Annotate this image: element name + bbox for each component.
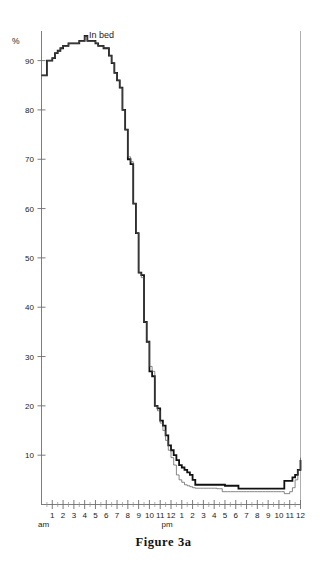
y-tick-label: 30 (25, 353, 34, 362)
x-tick-label: 5 (93, 511, 98, 520)
x-tick-label: 6 (104, 511, 109, 520)
x-tick-label: 2 (190, 511, 195, 520)
x-tick-label: 9 (266, 511, 271, 520)
figure-container: 102030405060708090 123456789101112123456… (0, 0, 327, 563)
x-tick-label: 12 (296, 511, 305, 520)
x-tick-label: 4 (82, 511, 87, 520)
x-tick-label: 1 (50, 511, 55, 520)
x-axis-pm-label: pm (161, 520, 172, 529)
x-tick-label: 11 (286, 511, 295, 520)
x-tick-label: 10 (145, 511, 154, 520)
x-tick-label: 5 (223, 511, 228, 520)
y-tick-label: 60 (25, 205, 34, 214)
x-tick-label: 8 (255, 511, 260, 520)
x-tick-label: 8 (126, 511, 131, 520)
y-tick-label: 50 (25, 254, 34, 263)
figure-caption: Figure 3a (0, 535, 327, 550)
x-tick-label: 6 (234, 511, 239, 520)
x-tick-label: 3 (201, 511, 206, 520)
x-tick-label: 9 (136, 511, 141, 520)
in-bed-annotation-label: In bed (89, 30, 114, 40)
x-tick-label: 7 (244, 511, 249, 520)
x-tick-label: 2 (61, 511, 66, 520)
x-axis-am-label: am (38, 520, 49, 529)
x-tick-label: 3 (72, 511, 77, 520)
y-tick-label: 80 (25, 106, 34, 115)
x-tick-label: 12 (167, 511, 176, 520)
x-tick-label: 10 (274, 511, 283, 520)
x-tick-label: 11 (156, 511, 165, 520)
y-axis-unit-label: % (12, 36, 20, 46)
y-tick-label: 20 (25, 402, 34, 411)
in-bed-step-chart: 102030405060708090 123456789101112123456… (0, 0, 327, 563)
x-tick-label: 4 (212, 511, 217, 520)
x-tick-label: 7 (115, 511, 120, 520)
chart-background (0, 0, 327, 563)
y-tick-label: 90 (25, 57, 34, 66)
y-tick-label: 70 (25, 155, 34, 164)
y-tick-label: 10 (25, 451, 34, 460)
x-tick-label: 1 (180, 511, 185, 520)
y-tick-label: 40 (25, 303, 34, 312)
